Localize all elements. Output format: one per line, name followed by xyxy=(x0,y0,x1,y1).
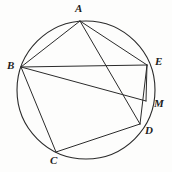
chord-A-B xyxy=(21,21,80,67)
vertex-label-M: M xyxy=(154,98,164,109)
vertex-label-D: D xyxy=(145,125,153,136)
chord-B-M xyxy=(21,67,146,101)
vertex-label-A: A xyxy=(75,3,82,14)
vertex-label-B: B xyxy=(7,60,14,71)
geometry-canvas xyxy=(0,0,172,172)
vertex-label-E: E xyxy=(155,56,162,67)
chord-B-C xyxy=(21,67,56,152)
chord-A-D xyxy=(80,21,140,124)
chord-B-E xyxy=(21,65,147,67)
geometry-figure: A B C D E M xyxy=(0,0,172,172)
chord-C-D xyxy=(56,124,140,152)
vertex-label-C: C xyxy=(50,155,57,166)
chord-group xyxy=(21,21,147,152)
circumscribed-circle xyxy=(17,21,155,159)
